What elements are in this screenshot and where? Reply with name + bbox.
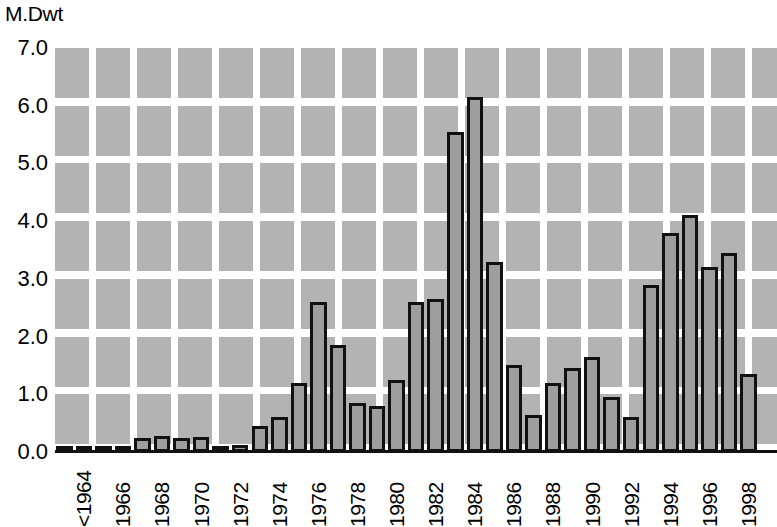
bar [682, 215, 699, 452]
y-tick-label: 2.0 [17, 326, 48, 348]
bar [486, 262, 503, 452]
y-axis-tick-labels: 0.01.02.03.04.05.06.07.0 [0, 30, 52, 470]
bar [564, 368, 581, 452]
x-tick-label: 1988 [543, 455, 563, 527]
bar [330, 345, 347, 452]
bar [506, 365, 523, 452]
x-axis-baseline [55, 450, 777, 453]
y-tick-label: 3.0 [17, 268, 48, 290]
x-tick-label: 1968 [152, 455, 172, 527]
bar [623, 417, 640, 452]
bar [349, 403, 366, 452]
x-tick-label: 1974 [270, 455, 290, 527]
x-tick-label: 1980 [387, 455, 407, 527]
y-tick-label: 4.0 [17, 210, 48, 232]
x-tick-label: 1990 [583, 455, 603, 527]
bar [525, 415, 542, 453]
bar [662, 233, 679, 452]
x-tick-label: 1998 [739, 455, 759, 527]
x-tick-label: 1970 [192, 455, 212, 527]
y-tick-label: 7.0 [17, 37, 48, 59]
x-axis-tick-labels: <196419661968197019721974197619781980198… [55, 455, 777, 527]
bar [447, 132, 464, 452]
bar [545, 383, 562, 452]
bar [310, 302, 327, 452]
bar [584, 357, 601, 452]
bar [291, 383, 308, 452]
plot-area [55, 48, 777, 452]
y-tick-label: 0.0 [17, 441, 48, 463]
x-tick-label: 1982 [426, 455, 446, 527]
bar [603, 397, 620, 452]
x-tick-label: 1984 [465, 455, 485, 527]
x-tick-label: 1986 [504, 455, 524, 527]
bar [643, 285, 660, 452]
x-tick-label: 1966 [113, 455, 133, 527]
x-tick-label: 1976 [309, 455, 329, 527]
y-axis-unit-label: M.Dwt [5, 2, 63, 26]
y-tick-label: 5.0 [17, 152, 48, 174]
x-tick-label: 1978 [348, 455, 368, 527]
bar [427, 299, 444, 452]
bar [408, 302, 425, 452]
bar [369, 406, 386, 452]
bar [252, 426, 269, 452]
x-tick-label: 1972 [231, 455, 251, 527]
y-tick-label: 1.0 [17, 383, 48, 405]
bar [701, 267, 718, 452]
x-tick-label: <1964 [74, 455, 94, 527]
bar-chart: M.Dwt 0.01.02.03.04.05.06.07.0 <19641966… [0, 0, 777, 527]
bar-series [55, 48, 777, 452]
x-tick-label: 1992 [622, 455, 642, 527]
y-tick-label: 6.0 [17, 95, 48, 117]
bar [388, 380, 405, 452]
bar [740, 374, 757, 452]
bar [271, 417, 288, 452]
bar [721, 253, 738, 452]
bar [467, 97, 484, 452]
x-tick-label: 1996 [700, 455, 720, 527]
x-tick-label: 1994 [661, 455, 681, 527]
